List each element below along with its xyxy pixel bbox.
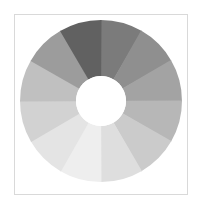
donut-chart[interactable] [0,0,203,210]
figure-root [0,0,203,210]
donut-center-hole [76,76,126,126]
